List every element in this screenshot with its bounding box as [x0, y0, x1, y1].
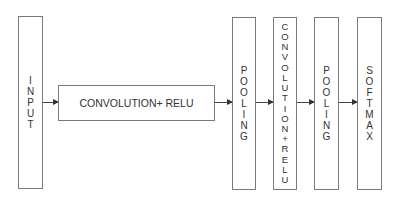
pool1-node: POOLING: [232, 17, 256, 190]
conv1-node: CONVOLUTION+ RELU: [58, 85, 215, 121]
arrow-conv1-to-pool1: [215, 102, 232, 103]
arrow-pool2-to-softmax: [339, 102, 357, 103]
input-node: INPUT: [18, 16, 43, 189]
conv1-label: CONVOLUTION+ RELU: [79, 97, 193, 109]
softmax-node: SOFTMAX: [357, 17, 382, 190]
arrow-conv2-to-pool2: [297, 102, 314, 103]
pool1-label: POOLING: [239, 65, 249, 142]
input-label: INPUT: [26, 75, 36, 130]
pool2-label: POOLING: [322, 65, 332, 142]
arrow-input-to-conv1: [43, 102, 58, 103]
pool2-node: POOLING: [314, 17, 339, 190]
softmax-label: SOFTMAX: [365, 65, 375, 142]
conv2-label: CONVOLUTION+RELU: [280, 22, 290, 185]
conv2-node: CONVOLUTION+RELU: [273, 17, 297, 190]
arrow-pool1-to-conv2: [256, 102, 273, 103]
